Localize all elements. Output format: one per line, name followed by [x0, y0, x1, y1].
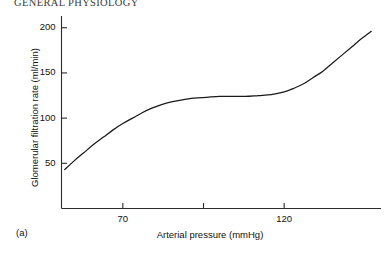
chart-canvas [0, 0, 388, 256]
y-axis-title: Glomerular filtration rate (ml/min) [29, 18, 40, 218]
x-tick-marks [123, 203, 284, 209]
x-axis-title: Arterial pressure (mmHg) [95, 229, 325, 240]
x-tick-label-120: 120 [267, 213, 301, 224]
gfr-curve [65, 31, 372, 169]
figure-panel-a: 50100150200 70120 Glomerular filtration … [0, 0, 388, 256]
panel-label: (a) [16, 227, 28, 238]
x-tick-label-70: 70 [106, 213, 140, 224]
y-tick-marks [62, 28, 68, 164]
